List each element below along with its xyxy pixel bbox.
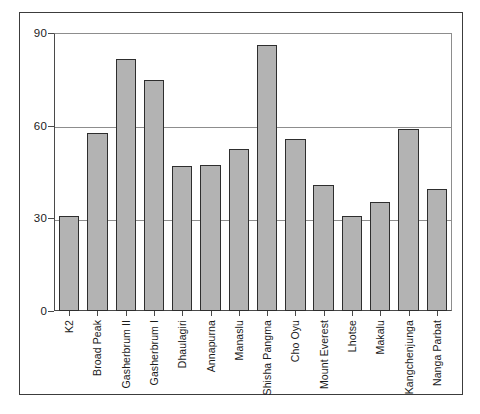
bar-slot <box>394 34 422 311</box>
x-tick-slot <box>423 311 451 317</box>
x-axis-category-label: Dhaulagiri <box>176 320 188 368</box>
bar-slot <box>253 34 281 311</box>
bar[interactable] <box>172 166 192 311</box>
x-label-slot: Gasherbrum II <box>112 318 140 408</box>
x-axis-category-label: K2 <box>63 320 75 333</box>
chart-figure: 90 60 30 0 K2Broad PeakGasherbrum IIGash… <box>0 0 480 414</box>
x-tick-mark <box>295 311 296 316</box>
bar-slot <box>168 34 196 311</box>
x-tick-mark <box>239 311 240 316</box>
y-tick-mark-60 <box>48 126 54 127</box>
y-tick-mark-90 <box>48 33 54 34</box>
x-tick-mark <box>409 311 410 316</box>
x-tick-slot <box>394 311 422 317</box>
bar[interactable] <box>229 149 249 311</box>
x-label-slot: Makalu <box>366 318 394 408</box>
x-label-slot: Kangchenjunga <box>394 318 422 408</box>
y-tick-label-0: 0 <box>40 305 47 317</box>
x-axis-category-label: Gasherbrum II <box>120 320 132 388</box>
x-label-slot: K2 <box>55 318 83 408</box>
bar[interactable] <box>257 45 277 311</box>
x-tick-mark <box>126 311 127 316</box>
x-axis-category-label: Cho Oyu <box>289 320 301 362</box>
x-label-slot: Nanga Parbat <box>423 318 451 408</box>
x-axis-category-label: Nanga Parbat <box>431 320 443 386</box>
x-label-slot: Manaslu <box>225 318 253 408</box>
x-axis-ticks <box>55 311 451 317</box>
y-axis: 90 60 30 0 <box>0 33 47 311</box>
bar-series <box>55 34 451 311</box>
x-axis-category-label: Gasherbrum I <box>148 320 160 385</box>
x-label-slot: Annapurna <box>196 318 224 408</box>
x-tick-slot <box>310 311 338 317</box>
x-tick-mark <box>97 311 98 316</box>
x-tick-slot <box>225 311 253 317</box>
bar-slot <box>112 34 140 311</box>
y-tick-label-60: 60 <box>34 120 47 132</box>
x-tick-slot <box>168 311 196 317</box>
x-axis-category-label: Broad Peak <box>91 320 103 376</box>
x-axis-category-label: Annapurna <box>205 320 217 372</box>
bar[interactable] <box>59 216 79 311</box>
x-tick-slot <box>55 311 83 317</box>
x-label-slot: Shisha Pangma <box>253 318 281 408</box>
x-label-slot: Dhaulagiri <box>168 318 196 408</box>
x-axis-category-label: Lhotse <box>346 320 358 352</box>
x-axis-category-label: Kangchenjunga <box>403 320 415 394</box>
bar[interactable] <box>87 133 107 312</box>
x-tick-slot <box>83 311 111 317</box>
x-tick-slot <box>196 311 224 317</box>
x-label-slot: Lhotse <box>338 318 366 408</box>
x-tick-mark <box>380 311 381 316</box>
bar[interactable] <box>116 59 136 311</box>
x-tick-slot <box>140 311 168 317</box>
bar[interactable] <box>285 139 305 311</box>
x-tick-slot <box>281 311 309 317</box>
x-axis-category-label: Manaslu <box>233 320 245 360</box>
y-tick-label-90: 90 <box>34 27 47 39</box>
bar-slot <box>310 34 338 311</box>
x-axis-category-label: Mount Everest <box>318 320 330 389</box>
bar[interactable] <box>144 80 164 311</box>
x-tick-slot <box>253 311 281 317</box>
x-tick-mark <box>437 311 438 316</box>
y-tick-label-30: 30 <box>34 212 47 224</box>
bar-slot <box>281 34 309 311</box>
x-tick-slot <box>338 311 366 317</box>
bar-slot <box>55 34 83 311</box>
bar-slot <box>338 34 366 311</box>
bar-slot <box>423 34 451 311</box>
x-tick-slot <box>366 311 394 317</box>
x-tick-mark <box>182 311 183 316</box>
x-label-slot: Mount Everest <box>310 318 338 408</box>
bar[interactable] <box>427 189 447 311</box>
x-label-slot: Broad Peak <box>83 318 111 408</box>
x-tick-mark <box>154 311 155 316</box>
bar[interactable] <box>370 202 390 311</box>
y-tick-mark-30 <box>48 218 54 219</box>
x-tick-slot <box>112 311 140 317</box>
x-tick-mark <box>352 311 353 316</box>
x-axis-category-label: Shisha Pangma <box>261 320 273 395</box>
x-axis-category-label: Makalu <box>374 320 386 354</box>
x-axis-labels: K2Broad PeakGasherbrum IIGasherbrum IDha… <box>55 318 451 408</box>
y-tick-mark-0 <box>48 311 54 312</box>
x-tick-mark <box>69 311 70 316</box>
x-tick-mark <box>324 311 325 316</box>
bar[interactable] <box>313 185 333 311</box>
x-label-slot: Cho Oyu <box>281 318 309 408</box>
bar-slot <box>196 34 224 311</box>
bar-slot <box>83 34 111 311</box>
bar[interactable] <box>398 129 418 311</box>
x-tick-mark <box>211 311 212 316</box>
bar-slot <box>366 34 394 311</box>
bar-slot <box>225 34 253 311</box>
x-label-slot: Gasherbrum I <box>140 318 168 408</box>
bar[interactable] <box>342 216 362 311</box>
bar[interactable] <box>200 165 220 311</box>
bar-slot <box>140 34 168 311</box>
x-tick-mark <box>267 311 268 316</box>
